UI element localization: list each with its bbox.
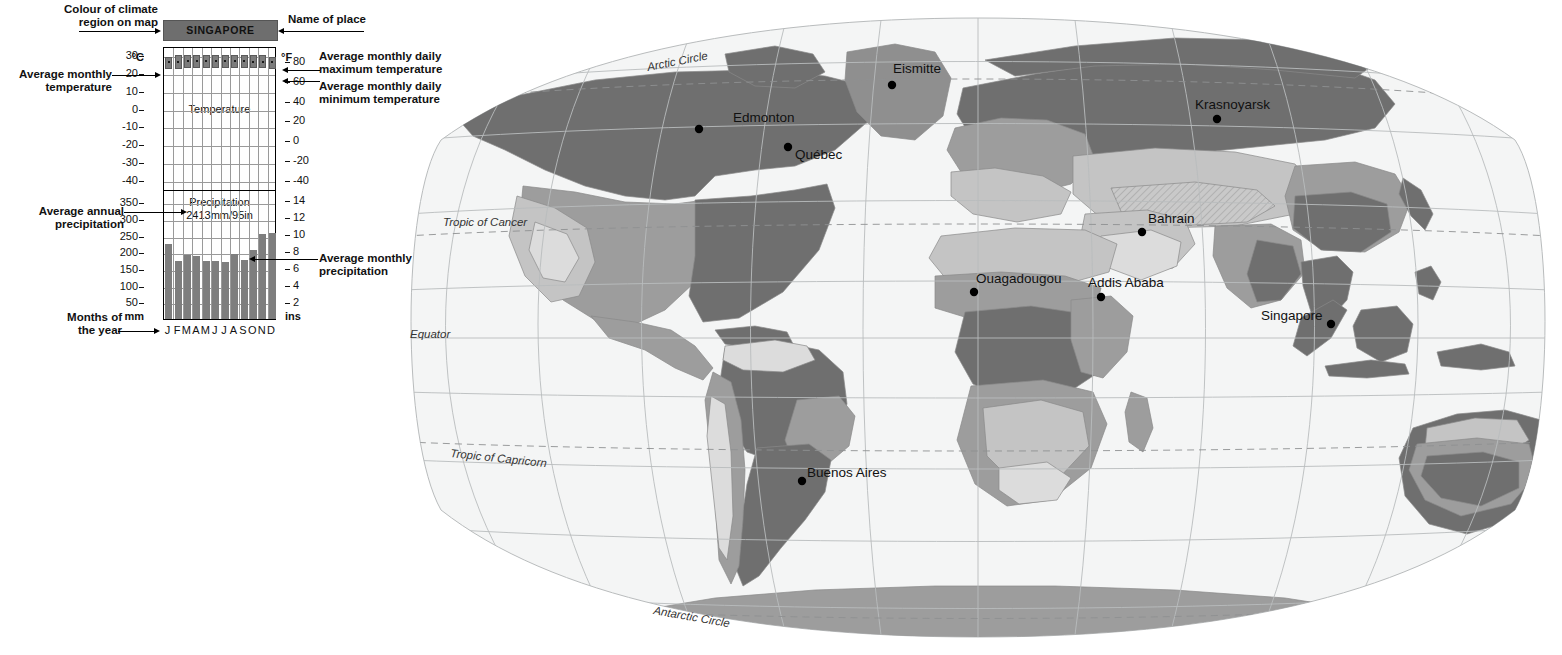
axis-tick	[285, 102, 290, 103]
axis-tick-label: 250	[120, 230, 138, 242]
axis-tick-label: 20	[293, 114, 305, 126]
chart-gridline-horizontal	[164, 238, 275, 239]
city-label: Addis Ababa	[1088, 275, 1164, 290]
city-dot	[888, 81, 896, 89]
average-temperature-marker	[196, 60, 198, 62]
arrow-months	[154, 328, 160, 334]
average-temperature-marker	[177, 61, 179, 63]
axis-tick	[139, 253, 144, 254]
axis-tick	[139, 181, 144, 182]
axis-tick	[285, 201, 290, 202]
chart-gridline-horizontal	[164, 204, 275, 205]
month-label: J	[219, 324, 228, 336]
axis-tick	[139, 270, 144, 271]
month-label: D	[266, 324, 275, 336]
axis-tick	[139, 163, 144, 164]
average-temperature-marker	[262, 61, 264, 63]
average-temperature-marker	[215, 60, 217, 62]
axis-tick-label: -10	[122, 120, 138, 132]
axis-tick-label: -40	[293, 174, 309, 186]
chart-gridline-vertical	[221, 48, 222, 190]
leader-line-monthly-precip	[254, 259, 318, 260]
precipitation-bar	[231, 254, 238, 319]
leader-line-daily-min	[288, 81, 320, 82]
average-temperature-marker	[271, 61, 273, 63]
world-climate-map: Arctic CircleTropic of CancerEquatorTrop…	[395, 0, 1562, 655]
precipitation-bar	[193, 256, 200, 319]
axis-tick-label: 10	[126, 85, 138, 97]
axis-tick-label: 0	[293, 134, 299, 146]
precipitation-bar	[259, 234, 266, 319]
axis-tick	[285, 161, 290, 162]
city-dot	[970, 288, 978, 296]
axis-tick-label: 0	[132, 103, 138, 115]
axis-tick-label: -30	[122, 156, 138, 168]
city-label: Edmonton	[733, 110, 795, 125]
chart-gridline-horizontal	[164, 93, 275, 94]
average-temperature-marker	[168, 61, 170, 63]
chart-gridline-vertical	[192, 48, 193, 190]
axis-tick	[285, 181, 290, 182]
precipitation-bar	[269, 233, 276, 319]
city-label: Buenos Aires	[807, 465, 887, 480]
chart-gridline-vertical	[230, 48, 231, 190]
month-label: J	[210, 324, 219, 336]
chart-gridline-horizontal	[164, 111, 275, 112]
chart-gridline-horizontal	[164, 254, 275, 255]
axis-tick	[139, 92, 144, 93]
axis-tick	[285, 269, 290, 270]
axis-unit-mm: mm	[114, 310, 144, 322]
average-temperature-marker	[243, 60, 245, 62]
leader-line-annual-precip	[124, 212, 183, 213]
axis-tick-label: 14	[293, 194, 305, 206]
arrow-daily-min	[282, 78, 288, 84]
axis-tick-label: -20	[122, 138, 138, 150]
axis-tick-label: 4	[293, 279, 299, 291]
chart-gridline-vertical	[183, 48, 184, 190]
precipitation-bar	[222, 262, 229, 319]
month-label: N	[257, 324, 266, 336]
month-label: F	[172, 324, 181, 336]
leader-line-daily-max	[288, 70, 320, 71]
axis-tick-label: 6	[293, 262, 299, 274]
arrow-avg-monthly-temp	[155, 72, 161, 78]
axis-tick	[139, 287, 144, 288]
axis-tick-label: -40	[122, 174, 138, 186]
city-label: Krasnoyarsk	[1195, 97, 1270, 112]
city-label: Singapore	[1261, 308, 1323, 323]
axis-tick-label: 150	[120, 263, 138, 275]
average-temperature-marker	[187, 60, 189, 62]
precipitation-bar	[241, 260, 248, 319]
chart-gridline-vertical	[211, 48, 212, 190]
city-label: Bahrain	[1148, 211, 1195, 226]
chart-gridline-horizontal	[164, 221, 275, 222]
average-temperature-marker	[205, 60, 207, 62]
axis-tick-label: 10	[293, 228, 305, 240]
month-label: M	[201, 324, 210, 336]
axis-tick-label: 8	[293, 245, 299, 257]
precipitation-bar	[203, 261, 210, 319]
axis-tick	[285, 286, 290, 287]
city-dot	[1213, 115, 1221, 123]
precipitation-bar	[184, 255, 191, 319]
average-temperature-marker	[234, 60, 236, 62]
average-temperature-marker	[224, 60, 226, 62]
axis-tick-label: 80	[293, 55, 305, 67]
city-dot	[798, 477, 806, 485]
axis-tick	[285, 141, 290, 142]
leader-line-months	[118, 331, 156, 332]
city-dot	[1327, 320, 1335, 328]
arrow-colour-region	[155, 28, 161, 34]
axis-tick	[139, 110, 144, 111]
chart-gridline-horizontal	[164, 128, 275, 129]
month-label: O	[248, 324, 257, 336]
annotation-colour-of-climate-region: Colour of climate region on map	[28, 3, 158, 28]
chart-gridline-horizontal	[164, 146, 275, 147]
axis-tick	[285, 62, 290, 63]
city-dot	[784, 143, 792, 151]
axis-tick	[139, 303, 144, 304]
place-name-box: SINGAPORE	[163, 20, 278, 41]
axis-tick	[139, 220, 144, 221]
precipitation-bar	[175, 261, 182, 319]
climate-graph-key: Colour of climate region on map Name of …	[0, 0, 440, 360]
